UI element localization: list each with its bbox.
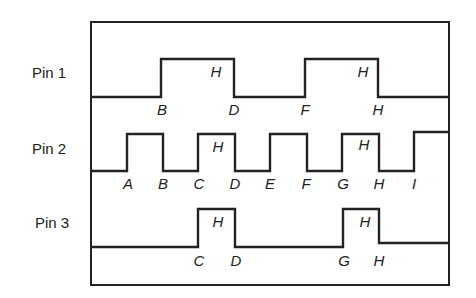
pin-1-high-mark: H [211,63,222,80]
pin-3-edge-label: D [231,252,242,269]
pin-2-edge-label: D [230,175,241,192]
pin-3-edge-label: H [374,252,385,269]
pin-1-edge-label: F [300,101,309,118]
pin-3-high-mark: H [360,213,371,230]
pin-2-high-mark: H [213,138,224,155]
pin-1-edge-label: B [157,101,167,118]
pin-2-edge-label: G [337,175,349,192]
pin-2-edge-label: H [374,175,385,192]
pin-3-edge-label: C [194,252,205,269]
pin-3-high-mark: H [213,213,224,230]
pin-2-edge-label: C [194,175,205,192]
pin-2-waveform [91,132,449,171]
pin-3-label: Pin 3 [35,214,69,231]
pin-1-edge-label: D [229,101,240,118]
pin-2-edge-label: B [158,175,168,192]
pin-2-edge-label: F [301,175,310,192]
pin-2-edge-label: E [265,175,275,192]
pin-3-edge-label: G [338,252,350,269]
pin-3-waveform [91,209,449,247]
pin-2-high-mark: H [359,136,370,153]
timing-diagram: Pin 1 Pin 2 Pin 3 H H B D F H H H A B C … [0,0,476,298]
pin-1-waveform [91,59,449,97]
pin-1-high-mark: H [358,63,369,80]
pin-2-edge-label: A [123,175,133,192]
pin-1-label: Pin 1 [32,64,66,81]
pin-2-edge-label: I [412,175,416,192]
pin-2-label: Pin 2 [32,140,66,157]
pin-1-edge-label: H [373,101,384,118]
